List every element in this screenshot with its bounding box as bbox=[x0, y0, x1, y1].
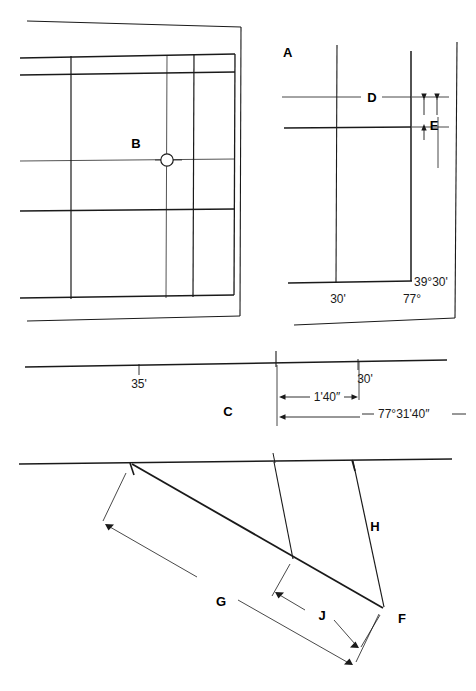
panel-c-right-tick-value: 30' bbox=[357, 372, 373, 386]
callout-label-a: A bbox=[283, 45, 293, 60]
dimension-label-h: H bbox=[370, 519, 379, 534]
callout-label-c: C bbox=[223, 404, 233, 419]
corner-coordinate-value: 39°30' bbox=[414, 275, 448, 289]
panel-c-left-tick-value: 35' bbox=[131, 377, 147, 391]
dimension-label-e: E bbox=[430, 118, 439, 133]
panel-a-bottom-right-value: 77° bbox=[403, 292, 421, 306]
dimension-label-j: J bbox=[318, 608, 325, 623]
panel-c-interval-value: 1'40″ bbox=[314, 390, 341, 404]
dimension-label-d: D bbox=[367, 90, 376, 105]
panel-c-longitude-value: 77°31'40″ bbox=[378, 407, 430, 421]
vertex-label-f: F bbox=[398, 611, 406, 626]
technical-diagram: B A D E 39°30' 30' 77° bbox=[0, 0, 476, 691]
callout-label-b: B bbox=[131, 136, 140, 151]
panel-a-grid-horizontal-lower bbox=[284, 127, 411, 128]
diagram-canvas: B A D E 39°30' 30' 77° bbox=[0, 0, 476, 691]
dimension-label-g: G bbox=[216, 594, 226, 609]
circle-register-mark bbox=[161, 154, 173, 166]
panel-a-bottom-left-value: 30' bbox=[330, 292, 346, 306]
